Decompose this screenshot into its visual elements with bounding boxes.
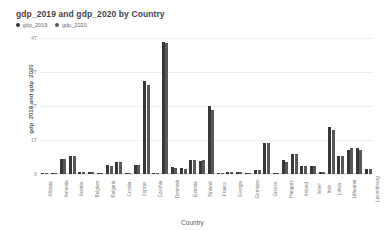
bar-group[interactable] <box>59 38 68 174</box>
x-axis-tick-label: Armenia <box>64 180 69 197</box>
bar-group[interactable] <box>151 38 160 174</box>
chart-legend: gdp_2019 gdp_2020 <box>16 22 87 28</box>
bar[interactable] <box>147 85 150 174</box>
bar-group[interactable] <box>207 38 216 174</box>
bar[interactable] <box>322 172 325 174</box>
bar[interactable] <box>100 173 103 174</box>
bar[interactable] <box>165 43 168 174</box>
x-axis-tick-label: Estonia <box>193 181 198 196</box>
bar-group[interactable] <box>225 38 234 174</box>
x-axis-tick-label: Latvia <box>337 183 342 195</box>
bar[interactable] <box>119 162 122 174</box>
bar-group[interactable] <box>114 38 123 174</box>
bar[interactable] <box>174 168 177 174</box>
bar-group[interactable] <box>68 38 77 174</box>
x-axis-tick: Czechia <box>150 176 167 220</box>
x-axis-tick: France <box>215 176 229 220</box>
bar-group[interactable] <box>197 38 206 174</box>
y-axis-tick-label: 2T <box>31 103 37 109</box>
bar[interactable] <box>239 172 242 174</box>
bar-group[interactable] <box>244 38 253 174</box>
bar[interactable] <box>230 172 233 174</box>
bar[interactable] <box>110 166 113 174</box>
bar-group[interactable] <box>364 38 373 174</box>
y-axis-tick-label: 4T <box>31 35 37 41</box>
bar[interactable] <box>54 173 57 174</box>
bar-group[interactable] <box>77 38 86 174</box>
x-axis-tick: Finland <box>200 176 215 220</box>
gridline <box>40 174 373 175</box>
bar-group[interactable] <box>123 38 132 174</box>
bar[interactable] <box>91 172 94 174</box>
x-axis-tick-label: Bulgaria <box>112 181 117 198</box>
legend-swatch-icon <box>16 23 20 27</box>
bar-group[interactable] <box>281 38 290 174</box>
bar[interactable] <box>221 173 224 174</box>
x-axis-tick-label: Belgium <box>95 181 100 198</box>
bar-group[interactable] <box>188 38 197 174</box>
bar-group[interactable] <box>345 38 354 174</box>
bar-group[interactable] <box>234 38 243 174</box>
bar[interactable] <box>137 165 140 174</box>
bar-group[interactable] <box>133 38 142 174</box>
x-axis-tick: Cyprus <box>135 176 150 220</box>
bar-group[interactable] <box>271 38 280 174</box>
x-axis-tick: Georgia <box>230 176 246 220</box>
bar[interactable] <box>156 173 159 174</box>
legend-item-gdp-2019[interactable]: gdp_2019 <box>16 22 47 28</box>
bar-group[interactable] <box>179 38 188 174</box>
x-axis-tick-label: Ireland <box>304 182 309 196</box>
bar[interactable] <box>267 143 270 174</box>
bar-group[interactable] <box>96 38 105 174</box>
bar-group[interactable] <box>216 38 225 174</box>
bar[interactable] <box>258 170 261 174</box>
bar-group[interactable] <box>327 38 336 174</box>
bar-group[interactable] <box>308 38 317 174</box>
bar[interactable] <box>202 160 205 174</box>
bar-group[interactable] <box>40 38 49 174</box>
x-axis-tick: Ireland <box>297 176 311 220</box>
bar-group[interactable] <box>105 38 114 174</box>
bar-group[interactable] <box>355 38 364 174</box>
bar-group[interactable] <box>170 38 179 174</box>
bar-group[interactable] <box>290 38 299 174</box>
y-axis-tick-label: 3T <box>31 69 37 75</box>
bar[interactable] <box>359 150 362 174</box>
bar-group[interactable] <box>49 38 58 174</box>
bar-group[interactable] <box>262 38 271 174</box>
bar[interactable] <box>332 130 335 174</box>
bar[interactable] <box>184 169 187 174</box>
x-axis-tick: Belgium <box>87 176 104 220</box>
bar-group[interactable] <box>253 38 262 174</box>
bar[interactable] <box>276 173 279 174</box>
bar[interactable] <box>45 173 48 174</box>
x-axis-tick-label: Denmark <box>176 180 181 199</box>
x-axis-tick: Lithuania <box>343 176 362 220</box>
bar-group[interactable] <box>318 38 327 174</box>
bar[interactable] <box>350 148 353 174</box>
bar[interactable] <box>73 156 76 174</box>
bar[interactable] <box>193 160 196 174</box>
bar-group[interactable] <box>142 38 151 174</box>
bar[interactable] <box>211 110 214 174</box>
bar[interactable] <box>128 173 131 174</box>
x-axis-tick: Austria <box>72 176 86 220</box>
bar[interactable] <box>82 172 85 174</box>
chart-title: gdp_2019 and gdp_2020 by Country <box>16 9 165 19</box>
bar[interactable] <box>304 166 307 174</box>
x-axis-tick: Germany <box>246 176 265 220</box>
bar-group[interactable] <box>86 38 95 174</box>
x-axis-tick-label: Albania <box>48 181 53 196</box>
bar[interactable] <box>63 159 66 174</box>
bar[interactable] <box>341 156 344 174</box>
bar-group[interactable] <box>336 38 345 174</box>
x-axis-tick-label: Croatia <box>128 182 133 197</box>
bar-group[interactable] <box>299 38 308 174</box>
bar[interactable] <box>295 154 298 174</box>
bar[interactable] <box>285 162 288 174</box>
bar[interactable] <box>313 166 316 174</box>
bar[interactable] <box>369 169 372 174</box>
legend-item-gdp-2020[interactable]: gdp_2020 <box>55 22 86 28</box>
bar[interactable] <box>248 173 251 174</box>
bar-group[interactable] <box>160 38 169 174</box>
